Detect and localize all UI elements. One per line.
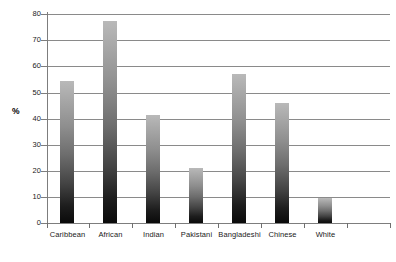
bar-african — [103, 21, 117, 223]
y-gridline-70 — [47, 40, 390, 41]
y-tick-50: 50 — [0, 89, 41, 97]
x-tick-mark-6 — [304, 223, 305, 228]
x-axis-label-bangladeshi: Bangladeshi — [216, 230, 263, 239]
x-tick-mark-4 — [218, 223, 219, 228]
y-tick-label-40: 40 — [19, 115, 41, 123]
y-gridline-40 — [47, 119, 390, 120]
bar-chinese — [275, 103, 289, 223]
x-axis-label-white: White — [304, 230, 347, 239]
y-tick-30: 30 — [0, 141, 41, 149]
x-axis-label-indian: Indian — [132, 230, 175, 239]
x-tick-mark-2 — [132, 223, 133, 228]
bar-indian — [146, 115, 160, 223]
x-tick-mark-0 — [47, 223, 48, 228]
y-tick-70: 70 — [0, 36, 41, 44]
x-axis-label-caribbean: Caribbean — [46, 230, 89, 239]
y-tick-10: 10 — [0, 193, 41, 201]
y-gridline-60 — [47, 66, 390, 67]
y-tick-60: 60 — [0, 62, 41, 70]
y-tick-40: 40 — [0, 115, 41, 123]
y-gridline-10 — [47, 197, 390, 198]
y-gridline-50 — [47, 93, 390, 94]
y-tick-label-30: 30 — [19, 141, 41, 149]
bar-pakistani — [189, 168, 203, 223]
y-tick-label-10: 10 — [19, 193, 41, 201]
x-tick-mark-5 — [261, 223, 262, 228]
y-tick-label-50: 50 — [19, 89, 41, 97]
y-tick-0: 0 — [0, 219, 41, 227]
bar-caribbean — [60, 81, 74, 223]
y-tick-label-60: 60 — [19, 62, 41, 70]
x-tick-mark-1 — [89, 223, 90, 228]
bar-chart-figure: % 80 70 60 50 40 30 — [0, 0, 396, 262]
x-axis-label-african: African — [89, 230, 132, 239]
bar-white — [318, 198, 332, 223]
x-tick-mark-7 — [347, 223, 348, 228]
x-tick-mark-3 — [175, 223, 176, 228]
x-axis-label-pakistani: Pakistani — [175, 230, 218, 239]
y-tick-label-80: 80 — [19, 10, 41, 18]
plot-area: % 80 70 60 50 40 30 — [0, 0, 396, 262]
y-tick-label-20: 20 — [19, 167, 41, 175]
y-axis-line — [47, 12, 48, 225]
y-tick-20: 20 — [0, 167, 41, 175]
y-tick-80: 80 — [0, 10, 41, 18]
y-gridline-20 — [47, 171, 390, 172]
y-gridline-80 — [47, 14, 390, 15]
x-tick-mark-8 — [390, 223, 391, 228]
y-tick-label-0: 0 — [19, 219, 41, 227]
y-tick-label-70: 70 — [19, 36, 41, 44]
bar-bangladeshi — [232, 74, 246, 223]
y-gridline-30 — [47, 145, 390, 146]
x-axis-label-chinese: Chinese — [261, 230, 304, 239]
